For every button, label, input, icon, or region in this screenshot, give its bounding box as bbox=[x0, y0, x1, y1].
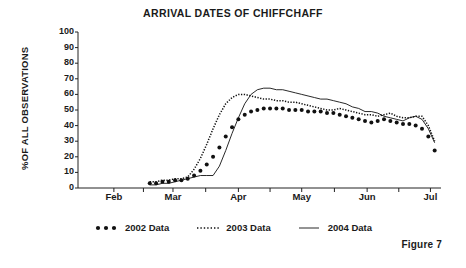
y-axis-tick-label: 70 bbox=[50, 74, 74, 83]
y-axis-tick-label: 40 bbox=[50, 121, 74, 130]
data-point bbox=[249, 110, 253, 114]
x-axis-tick-label: May bbox=[292, 191, 310, 202]
y-axis-tick-label: 60 bbox=[50, 89, 74, 98]
y-axis-tick-label: 100 bbox=[50, 27, 74, 36]
data-point bbox=[357, 117, 361, 121]
data-point bbox=[369, 120, 373, 124]
data-point bbox=[376, 119, 380, 123]
data-point bbox=[426, 135, 430, 139]
series-2003 bbox=[150, 94, 435, 181]
y-axis-tick-label: 20 bbox=[50, 152, 74, 161]
data-point bbox=[338, 113, 342, 117]
data-point bbox=[319, 110, 323, 114]
x-axis-tick-label: Jul bbox=[424, 191, 438, 202]
data-point bbox=[433, 149, 437, 153]
chart-legend: 2002 Data 2003 Data 2004 Data bbox=[0, 216, 466, 238]
data-point bbox=[363, 119, 367, 123]
series-2004 bbox=[150, 88, 435, 185]
data-point bbox=[312, 110, 316, 114]
data-point bbox=[306, 110, 310, 114]
plot-area: 1009080706050403020100 FebMarAprMayJunJu… bbox=[0, 0, 466, 215]
y-axis-tick-label: 50 bbox=[50, 105, 74, 114]
data-point bbox=[262, 106, 266, 110]
x-axis-tick-labels: FebMarAprMayJunJul bbox=[0, 191, 466, 207]
data-point bbox=[382, 117, 386, 121]
data-point bbox=[243, 113, 247, 117]
x-axis-tick-label: Mar bbox=[165, 191, 182, 202]
y-axis-tick-label: 30 bbox=[50, 136, 74, 145]
data-point bbox=[344, 114, 348, 118]
data-point bbox=[274, 106, 278, 110]
data-point bbox=[414, 124, 418, 128]
x-axis-tick-label: Jun bbox=[359, 191, 376, 202]
data-point bbox=[300, 108, 304, 112]
data-series-group bbox=[148, 88, 437, 185]
x-axis-tick-label: Feb bbox=[105, 191, 122, 202]
data-point bbox=[281, 106, 285, 110]
y-axis-tick-label: 10 bbox=[50, 167, 74, 176]
figure-container: ARRIVAL DATES OF CHIFFCHAFF %OF ALL OBSE… bbox=[0, 0, 466, 268]
legend-item-2004: 2004 Data bbox=[297, 222, 372, 233]
data-point bbox=[331, 111, 335, 115]
axes bbox=[75, 32, 441, 192]
data-point bbox=[268, 106, 272, 110]
data-point bbox=[388, 119, 392, 123]
x-axis-tick-label: Apr bbox=[230, 191, 246, 202]
thick-dotted-swatch-icon bbox=[94, 223, 120, 232]
legend-label-2004: 2004 Data bbox=[328, 222, 372, 233]
data-point bbox=[293, 108, 297, 112]
y-axis-tick-label: 90 bbox=[50, 43, 74, 52]
legend-label-2002: 2002 Data bbox=[125, 222, 169, 233]
data-point bbox=[401, 122, 405, 126]
data-point bbox=[211, 155, 215, 159]
data-point bbox=[205, 163, 209, 167]
data-point bbox=[198, 169, 202, 173]
series-path bbox=[150, 88, 435, 185]
fine-dotted-swatch-icon bbox=[195, 223, 221, 232]
data-point bbox=[395, 120, 399, 124]
y-axis-tick-labels: 1009080706050403020100 bbox=[48, 0, 74, 215]
legend-label-2003: 2003 Data bbox=[226, 222, 270, 233]
data-point bbox=[407, 122, 411, 126]
legend-item-2002: 2002 Data bbox=[94, 222, 169, 233]
series-path bbox=[150, 94, 435, 181]
data-point bbox=[224, 135, 228, 139]
legend-item-2003: 2003 Data bbox=[195, 222, 270, 233]
data-point bbox=[255, 108, 259, 112]
figure-caption: Figure 7 bbox=[402, 239, 443, 250]
data-point bbox=[420, 127, 424, 131]
solid-line-swatch-icon bbox=[297, 223, 323, 232]
data-point bbox=[287, 108, 291, 112]
data-point bbox=[230, 125, 234, 129]
data-point bbox=[217, 145, 221, 149]
data-point bbox=[325, 111, 329, 115]
data-point bbox=[350, 116, 354, 120]
y-axis-tick-label: 80 bbox=[50, 58, 74, 67]
